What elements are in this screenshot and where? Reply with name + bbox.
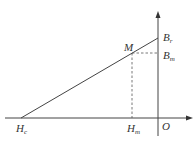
- label-origin: O: [162, 121, 170, 132]
- label-hc-main: H: [16, 122, 24, 134]
- label-br: Br: [163, 32, 172, 45]
- label-hc-sub: c: [24, 128, 27, 136]
- label-hc: Hc: [16, 123, 27, 136]
- x-axis-arrow-icon: [186, 116, 193, 121]
- label-bm: Bm: [163, 50, 175, 63]
- label-br-main: B: [163, 31, 170, 43]
- label-m-main: M: [124, 41, 133, 53]
- label-br-sub: r: [170, 37, 173, 45]
- label-hm-main: H: [127, 122, 135, 134]
- demagnetization-diagram: Br Bm M Hc Hm O: [0, 0, 193, 144]
- label-hm: Hm: [127, 123, 140, 136]
- load-line: [21, 38, 158, 118]
- label-hm-sub: m: [135, 128, 140, 136]
- label-bm-sub: m: [170, 55, 175, 63]
- label-m: M: [124, 42, 133, 53]
- label-origin-main: O: [162, 120, 170, 132]
- label-bm-main: B: [163, 49, 170, 61]
- y-axis-arrow-icon: [156, 11, 161, 18]
